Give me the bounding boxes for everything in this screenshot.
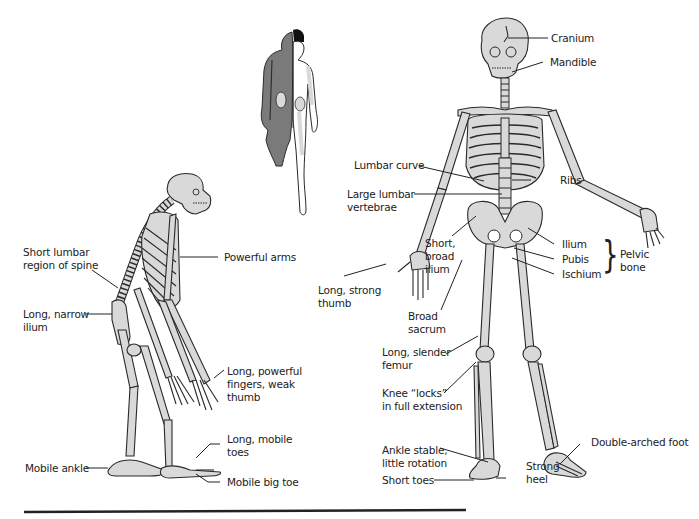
ape-human-silhouette-icon: [261, 29, 317, 215]
bottom-rule: [24, 510, 466, 512]
label-long-slender-femur: Long, slender femur: [382, 346, 450, 372]
label-long-strong-thumb: Long, strong thumb: [318, 284, 381, 310]
label-knee-locks: Knee “locks” in full extension: [382, 387, 462, 413]
label-large-lumbar-vertebrae: Large lumbar vertebrae: [347, 188, 415, 214]
label-ribs: Ribs: [560, 174, 582, 187]
label-ilium: Ilium: [562, 238, 587, 251]
label-long-narrow-ilium: Long, narrow ilium: [23, 308, 89, 334]
label-pelvic-bone: Pelvic bone: [620, 248, 649, 274]
label-short-broad-ilium: Short, broad ilium: [425, 237, 455, 276]
label-double-arched-foot: Double-arched foot: [591, 436, 688, 449]
label-cranium: Cranium: [551, 32, 594, 45]
label-mobile-big-toe: Mobile big toe: [227, 476, 299, 489]
label-long-mobile-toes: Long, mobile toes: [227, 433, 292, 459]
label-short-toes: Short toes: [382, 474, 434, 487]
label-powerful-arms: Powerful arms: [224, 251, 296, 264]
label-broad-sacrum: Broad sacrum: [408, 310, 446, 336]
skeleton-comparison-figure: Short lumbar region of spine Powerful ar…: [0, 0, 699, 519]
label-mandible: Mandible: [550, 56, 596, 69]
label-ankle-stable: Ankle stable, little rotation: [382, 444, 447, 470]
label-strong-heel: Strong heel: [526, 460, 559, 486]
chimpanzee-skeleton-icon: [108, 173, 221, 478]
label-ischium: Ischium: [562, 268, 601, 281]
label-long-powerful-fingers: Long, powerful fingers, weak thumb: [227, 365, 302, 404]
label-mobile-ankle: Mobile ankle: [25, 462, 89, 475]
pelvic-bone-brace: }: [602, 233, 619, 277]
label-short-lumbar-region: Short lumbar region of spine: [23, 246, 98, 272]
label-pubis: Pubis: [562, 253, 589, 266]
label-lumbar-curve: Lumbar curve: [354, 159, 424, 172]
